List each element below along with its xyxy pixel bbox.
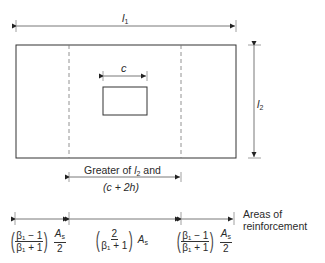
l1-label: l1 — [122, 12, 128, 28]
ratio-denominator: β₁ + 1 — [100, 240, 128, 251]
areas-of-text: Areas of — [243, 208, 307, 220]
as-half-fraction: As 2 — [220, 228, 232, 254]
areas-of-reinforcement-label: Areas of reinforcement — [243, 208, 307, 232]
left-paren: ( — [177, 230, 181, 252]
ratio-fraction: β₁ − 1 β₁ + 1 — [15, 230, 43, 253]
right-paren: ) — [44, 230, 48, 252]
as-denominator: 2 — [56, 243, 64, 254]
ratio-denominator: β₁ + 1 — [181, 242, 209, 253]
l2-label: l2 — [257, 98, 263, 114]
c-symbol: c — [121, 62, 127, 74]
as-subscript: s — [227, 233, 231, 240]
middle-strip-width-label-line1: Greater of l2 and — [84, 164, 161, 180]
reinforcement-dimension — [15, 212, 234, 225]
column-outline — [103, 87, 147, 115]
l2-subscript: 2 — [259, 104, 263, 111]
ratio-numerator: 2 — [111, 228, 119, 240]
middle-strip-formula: ( 2 β₁ + 1 ) As — [94, 228, 148, 251]
greater-of-text: Greater of — [84, 164, 134, 176]
as-half-fraction: As 2 — [54, 228, 66, 254]
right-paren: ) — [210, 230, 214, 252]
left-paren: ( — [11, 230, 15, 252]
ratio-fraction: 2 β₁ + 1 — [100, 228, 128, 251]
as-term: As — [138, 234, 148, 246]
as-subscript: s — [61, 233, 65, 240]
middle-strip-width-label-line2: (c + 2h) — [103, 181, 139, 193]
ratio-denominator: β₁ + 1 — [15, 242, 43, 253]
and-text: and — [140, 164, 160, 176]
ratio-numerator: β₁ − 1 — [181, 230, 209, 242]
reinforcement-text: reinforcement — [243, 220, 307, 232]
c-plus-2h-text: (c + 2h) — [103, 181, 139, 193]
right-paren: ) — [129, 229, 133, 251]
ratio-fraction: β₁ − 1 β₁ + 1 — [181, 230, 209, 253]
ratio-numerator: β₁ − 1 — [15, 230, 43, 242]
right-strip-formula: ( β₁ − 1 β₁ + 1 ) As 2 — [175, 228, 231, 254]
as-subscript: s — [144, 239, 148, 246]
c-label: c — [121, 62, 127, 74]
left-strip-formula: ( β₁ − 1 β₁ + 1 ) As 2 — [9, 228, 65, 254]
as-denominator: 2 — [222, 243, 230, 254]
left-paren: ( — [96, 229, 100, 251]
l1-subscript: 1 — [124, 18, 128, 25]
